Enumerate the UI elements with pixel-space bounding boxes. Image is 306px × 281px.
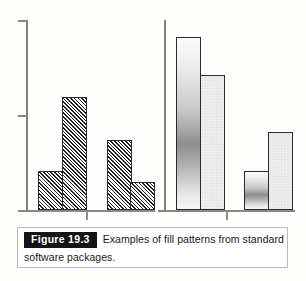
chart-right-plot-area <box>152 0 297 226</box>
bar-right-g2-a <box>244 171 269 210</box>
figure-caption-box: Figure 19.3 Examples of fill patterns fr… <box>17 227 288 268</box>
figure-number-label: Figure 19.3 <box>24 232 97 248</box>
chart-right-y-axis <box>164 20 166 212</box>
chart-right <box>152 0 297 226</box>
bar-right-g1-a <box>176 37 201 210</box>
caption-first-line: Figure 19.3 Examples of fill patterns fr… <box>24 232 281 248</box>
chart-left <box>12 0 157 226</box>
caption-text-line-2: software packages. <box>24 250 281 266</box>
bar-right-g2-b <box>268 132 293 210</box>
bar-right-g1-b <box>200 75 225 210</box>
bar-left-g1-a <box>38 171 63 210</box>
bar-left-g2-a <box>107 140 132 210</box>
bar-left-g1-b <box>62 97 87 210</box>
chart-left-x-tick-center <box>86 211 88 220</box>
caption-text-line-1: Examples of fill patterns from standard <box>103 232 284 248</box>
chart-left-plot-area <box>12 0 157 226</box>
chart-left-y-tick-top <box>18 20 28 22</box>
chart-left-y-tick-mid <box>18 115 28 117</box>
page-canvas: Figure 19.3 Examples of fill patterns fr… <box>0 0 306 281</box>
figure-image <box>0 0 306 226</box>
chart-right-x-tick-center <box>226 211 228 220</box>
